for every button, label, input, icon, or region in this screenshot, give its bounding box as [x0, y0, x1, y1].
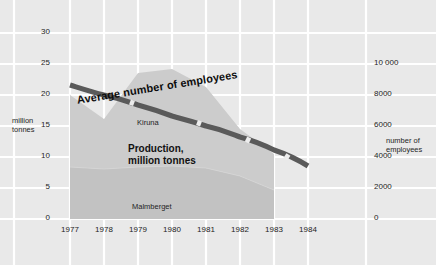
left-axis-caption-line2: tonnes — [12, 125, 52, 134]
annotation-production-line2: million tonnes — [128, 155, 196, 167]
xtick-label-1979: 1979 — [124, 226, 152, 235]
y2tick-label-10000: 10 000 — [374, 59, 420, 68]
ytick-label-30: 30 — [24, 28, 50, 37]
ytick-label-10: 10 — [24, 152, 50, 161]
y2tick-label-8000: 8000 — [374, 90, 420, 99]
right-axis-caption-line2: employees — [386, 145, 436, 154]
chart-figure: 30 25 20 15 10 5 0 million tonnes 10 000… — [0, 0, 436, 265]
ytick-label-5: 5 — [24, 183, 50, 192]
ytick-label-25: 25 — [24, 59, 50, 68]
xtick-label-1978: 1978 — [90, 226, 118, 235]
xtick-label-1980: 1980 — [158, 226, 186, 235]
xtick-label-1982: 1982 — [226, 226, 254, 235]
annotation-kiruna: Kiruna — [137, 119, 159, 127]
left-axis-caption-line1: million — [12, 116, 52, 125]
xtick-label-1981: 1981 — [192, 226, 220, 235]
y2tick-label-6000: 6000 — [374, 121, 420, 130]
annotation-production-line1: Production, — [128, 143, 184, 155]
ytick-label-0: 0 — [24, 214, 50, 223]
right-axis-caption-line1: number of — [386, 136, 436, 145]
y2tick-label-2000: 2000 — [374, 183, 420, 192]
annotation-malmberget: Malmberget — [132, 203, 172, 211]
xtick-label-1977: 1977 — [56, 226, 84, 235]
ytick-label-20: 20 — [24, 90, 50, 99]
y2tick-label-0: 0 — [374, 214, 420, 223]
xtick-label-1983: 1983 — [260, 226, 288, 235]
xtick-label-1984: 1984 — [294, 226, 322, 235]
